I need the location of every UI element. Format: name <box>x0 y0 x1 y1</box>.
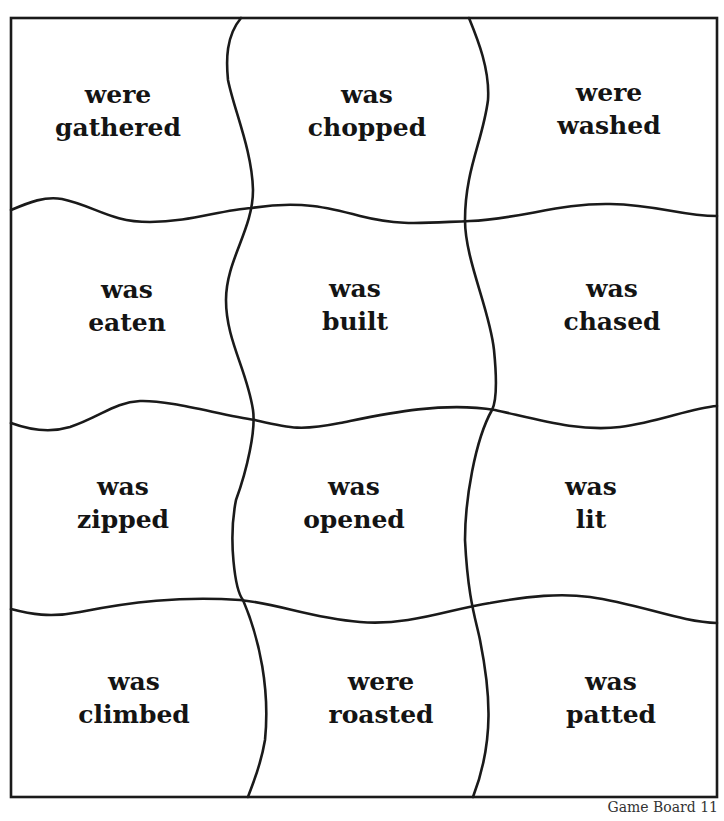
cell-r1-c0[interactable]: was eaten <box>88 273 166 339</box>
cell-verb: chased <box>563 305 660 338</box>
cell-auxiliary: was <box>303 470 405 503</box>
cell-r0-c1[interactable]: was chopped <box>308 78 426 144</box>
cell-verb: washed <box>557 109 660 142</box>
cell-auxiliary: was <box>77 470 169 503</box>
cell-verb: lit <box>565 503 617 536</box>
row-divider-2 <box>11 401 717 430</box>
cell-r3-c2[interactable]: was patted <box>566 665 656 731</box>
cell-auxiliary: was <box>322 272 388 305</box>
cell-verb: chopped <box>308 111 426 144</box>
col-divider-1 <box>226 18 266 797</box>
cell-verb: climbed <box>78 698 190 731</box>
cell-verb: built <box>322 305 388 338</box>
cell-r3-c0[interactable]: was climbed <box>78 665 190 731</box>
cell-auxiliary: was <box>308 78 426 111</box>
cell-verb: eaten <box>88 306 166 339</box>
cell-verb: opened <box>303 503 405 536</box>
cell-verb: roasted <box>328 698 433 731</box>
cell-r2-c1[interactable]: was opened <box>303 470 405 536</box>
cell-r0-c0[interactable]: were gathered <box>55 78 181 144</box>
cell-auxiliary: was <box>78 665 190 698</box>
cell-auxiliary: was <box>563 272 660 305</box>
cell-r1-c2[interactable]: was chased <box>563 272 660 338</box>
game-board-label: Game Board 11 <box>607 799 718 815</box>
cell-verb: patted <box>566 698 656 731</box>
cell-auxiliary: was <box>566 665 656 698</box>
cell-r0-c2[interactable]: were washed <box>557 76 660 142</box>
cell-auxiliary: was <box>565 470 617 503</box>
cell-verb: zipped <box>77 503 169 536</box>
cell-auxiliary: were <box>328 665 433 698</box>
cell-auxiliary: was <box>88 273 166 306</box>
cell-r3-c1[interactable]: were roasted <box>328 665 433 731</box>
cell-auxiliary: were <box>55 78 181 111</box>
row-divider-3 <box>11 595 717 623</box>
cell-r2-c2[interactable]: was lit <box>565 470 617 536</box>
cell-verb: gathered <box>55 111 181 144</box>
row-divider-1 <box>11 198 717 223</box>
cell-auxiliary: were <box>557 76 660 109</box>
cell-r1-c1[interactable]: was built <box>322 272 388 338</box>
cell-r2-c0[interactable]: was zipped <box>77 470 169 536</box>
